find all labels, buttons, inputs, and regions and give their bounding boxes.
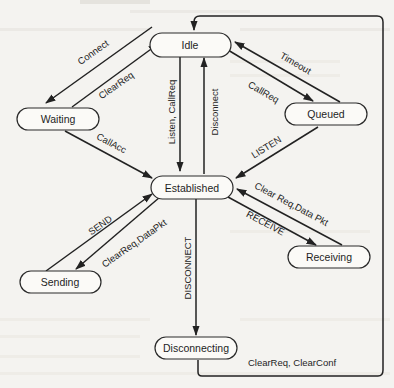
edge-timeout: Timeout [235,42,340,102]
edge-callacc: CallAcc [65,130,152,178]
edge-label-callacc: CallAcc [95,130,129,155]
state-idle: Idle [150,33,231,57]
edge-label-connect: Connect [75,37,111,67]
edge-label-listen: LISTEN [249,133,283,160]
edge-disconnect: Disconnect [204,58,220,174]
edge-label-timeout: Timeout [278,50,313,77]
edge-label-disconnect-upper: DISCONNECT [182,236,193,299]
state-diagram: Connect ClearReq Listen, CallReq Disconn… [0,0,394,388]
edge-label-callreq: CallReq [246,79,281,105]
state-label-disconnecting: Disconnecting [163,342,229,354]
edge-label-listen-callreq: Listen, CallReq [166,80,177,144]
state-label-sending: Sending [41,276,80,288]
edge-listen-callreq: Listen, CallReq [166,57,180,171]
state-disconnecting: Disconnecting [155,337,237,359]
state-label-queued: Queued [307,108,345,120]
state-established: Established [151,176,233,199]
state-queued: Queued [285,103,367,125]
edge-listen: LISTEN [236,127,318,178]
state-waiting: Waiting [17,108,99,130]
edge-disconnect-upper: DISCONNECT [182,199,196,335]
state-label-waiting: Waiting [41,113,76,125]
state-receiving: Receiving [288,246,370,268]
state-label-established: Established [165,182,219,194]
state-label-receiving: Receiving [306,251,352,263]
edge-label-disconnect: Disconnect [209,88,220,135]
state-sending: Sending [20,271,101,293]
state-label-idle: Idle [182,39,199,51]
edge-send: SEND [46,194,152,271]
edge-label-clearreq-clearconf: ClearReq, ClearConf [248,357,337,368]
